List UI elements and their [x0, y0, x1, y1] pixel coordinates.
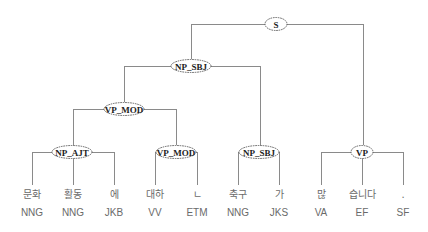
- node-label: VP_MOD: [157, 148, 196, 158]
- tree-node-vp_mod_top[interactable]: VP_MOD: [104, 103, 144, 116]
- tree-nodes: SNP_SBJVP_MODNP_AJTVP_MODNP_SBJVP: [52, 18, 373, 159]
- tree-node-np_sbj_top[interactable]: NP_SBJ: [171, 60, 211, 73]
- leaf-pos-tag: NNG: [62, 207, 84, 218]
- leaf-word: 활동: [64, 188, 82, 200]
- leaf-word: 가: [275, 189, 284, 200]
- leaf-word: 축구: [229, 189, 247, 200]
- tree-node-vp[interactable]: VP: [351, 146, 373, 159]
- leaf-word: 많: [317, 189, 326, 200]
- leaf-word: 에: [110, 189, 119, 200]
- leaf-word: 문화: [23, 189, 41, 200]
- leaf-pos-tag: SF: [397, 207, 410, 218]
- leaf-token: .SF: [397, 189, 410, 218]
- edge-group-s: [192, 24, 364, 145]
- node-label: VP_MOD: [105, 105, 144, 115]
- leaf-token: 대하VV: [146, 188, 164, 218]
- tree-edges: [33, 24, 404, 185]
- leaf-token: ㄴETM: [186, 189, 207, 218]
- node-label: VP: [356, 148, 368, 158]
- node-label: NP_SBJ: [243, 148, 276, 158]
- tree-node-np_sbj_low[interactable]: NP_SBJ: [239, 146, 279, 159]
- leaf-word: 대하: [146, 188, 164, 200]
- leaf-pos-tag: JKS: [270, 207, 289, 218]
- leaf-pos-tag: JKB: [105, 207, 124, 218]
- leaf-pos-tag: VV: [148, 207, 162, 218]
- leaf-token: 가JKS: [270, 189, 289, 218]
- leaf-token: 습니다EF: [349, 189, 376, 218]
- leaf-token: 문화NNG: [21, 189, 43, 218]
- leaf-pos-tag: ETM: [186, 207, 207, 218]
- leaf-word: ㄴ: [193, 189, 202, 200]
- tree-node-vp_mod_low[interactable]: VP_MOD: [156, 146, 196, 159]
- leaf-pos-tag: NNG: [21, 207, 43, 218]
- leaf-word: .: [401, 189, 404, 200]
- leaf-word: 습니다: [349, 189, 376, 200]
- node-label: NP_SBJ: [175, 62, 208, 72]
- leaf-pos-tag: NNG: [227, 207, 249, 218]
- leaf-token: 에JKB: [105, 189, 124, 218]
- leaf-token: 축구NNG: [227, 189, 249, 218]
- tree-leaves: 문화NNG활동NNG에JKB대하VVㄴETM축구NNG가JKS많VA습니다EF.…: [21, 188, 410, 218]
- leaf-token: 많VA: [315, 189, 328, 218]
- leaf-pos-tag: VA: [315, 207, 328, 218]
- tree-node-s[interactable]: S: [265, 18, 287, 31]
- leaf-token: 활동NNG: [62, 188, 84, 218]
- parse-tree-diagram: SNP_SBJVP_MODNP_AJTVP_MODNP_SBJVP 문화NNG활…: [0, 0, 428, 232]
- tree-node-np_ajt[interactable]: NP_AJT: [52, 146, 92, 159]
- node-label: NP_AJT: [55, 148, 89, 158]
- leaf-pos-tag: EF: [356, 207, 369, 218]
- edge-group-np_sbj_top: [125, 66, 261, 145]
- node-label: S: [273, 20, 278, 30]
